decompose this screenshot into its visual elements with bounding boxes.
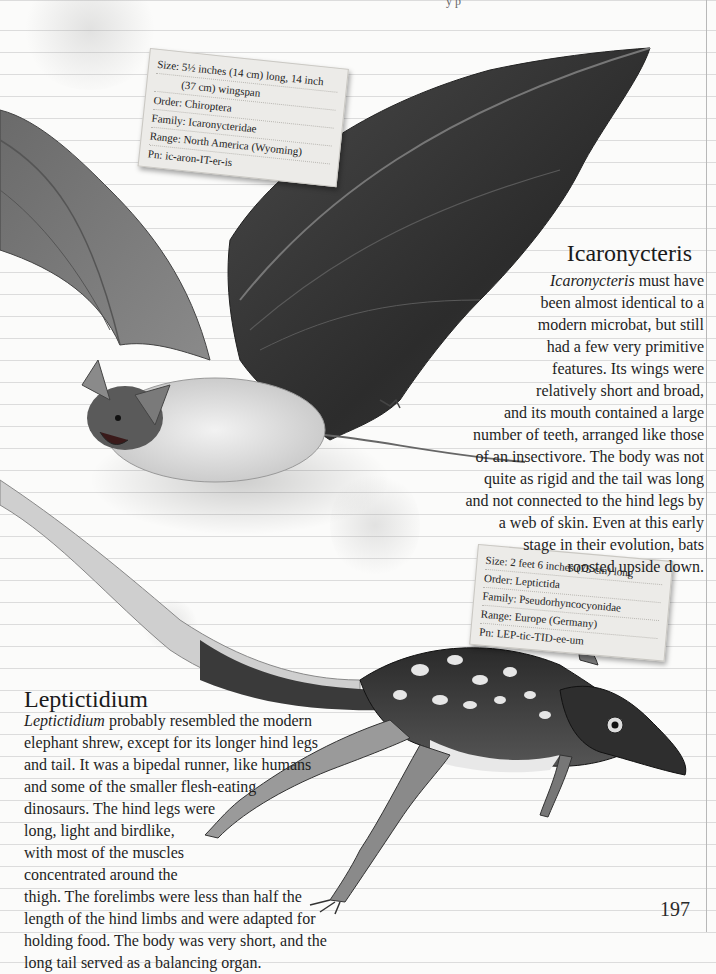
description-line: thigh. The forelimbs were less than half… — [24, 886, 327, 908]
description-line: of an insectivore. The body was not — [465, 446, 704, 468]
description-line: a web of skin. Even at this early — [465, 512, 704, 534]
description-line: relatively short and broad, — [465, 380, 704, 402]
description-line: and its mouth contained a large — [465, 402, 704, 424]
description-line: been almost identical to a — [465, 292, 704, 314]
description-line: roosted upside down. — [465, 556, 704, 578]
description-line: and not connected to the hind legs by — [465, 490, 704, 512]
leptictidium-description: Leptictidium probably resembled the mode… — [24, 710, 327, 974]
description-line: and tail. It was a bipedal runner, like … — [24, 754, 327, 776]
icaronycteris-description: Icaronycteris must have been almost iden… — [465, 270, 704, 578]
description-line: concentrated around the — [24, 864, 327, 886]
description-line: number of teeth, arranged like those — [465, 424, 704, 446]
description-line: Leptictidium probably resembled the mode… — [24, 710, 327, 732]
description-line: dinosaurs. The hind legs were — [24, 798, 327, 820]
description-line: Icaronycteris must have — [465, 270, 704, 292]
description-line: stage in their evolution, bats — [465, 534, 704, 556]
description-line: long tail served as a balancing organ. — [24, 952, 327, 974]
page-number: 197 — [660, 898, 690, 921]
description-line: and some of the smaller flesh-eating — [24, 776, 327, 798]
leptictidium-heading: Leptictidium — [24, 686, 148, 713]
icaronycteris-heading: Icaronycteris — [567, 240, 692, 267]
description-line: had a few very primitive — [465, 336, 704, 358]
species-name-italic: Icaronycteris — [550, 272, 635, 289]
description-line: modern microbat, but still — [465, 314, 704, 336]
icaronycteris-info-card: Size: 5½ inches (14 cm) long, 14 inch (3… — [138, 48, 349, 187]
description-line: quite as rigid and the tail was long — [465, 468, 704, 490]
species-name-italic: Leptictidium — [24, 712, 105, 729]
description-line: with most of the muscles — [24, 842, 327, 864]
description-line: features. Its wings were — [465, 358, 704, 380]
description-line: length of the hind limbs and were adapte… — [24, 908, 327, 930]
description-line: elephant shrew, except for its longer hi… — [24, 732, 327, 754]
description-line: long, light and birdlike, — [24, 820, 327, 842]
description-line: holding food. The body was very short, a… — [24, 930, 327, 952]
